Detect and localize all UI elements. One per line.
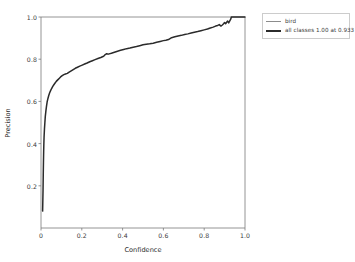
x-tick-label: 0.4 [118, 232, 128, 239]
y-tick-label: 1.0 [21, 14, 37, 21]
legend-swatch-line-icon [266, 21, 281, 22]
legend-swatch-line-icon [266, 30, 281, 32]
y-tick-label: 0.4 [21, 140, 37, 147]
series-line-all-classes [43, 17, 245, 211]
legend-label: bird [285, 17, 296, 26]
x-tick-label: 0.2 [77, 232, 87, 239]
legend-item-all-classes[interactable]: all classes 1.00 at 0.933 [266, 26, 346, 35]
precision-confidence-chart: 00.20.40.60.81.0 0.20.40.60.81.0 Confide… [0, 0, 355, 262]
y-tick-label: 0.6 [21, 98, 37, 105]
x-tick-label: 0.6 [158, 232, 168, 239]
x-axis-label: Confidence [124, 246, 161, 254]
chart-legend: bird all classes 1.00 at 0.933 [262, 13, 350, 39]
x-tick-label: 0.8 [199, 232, 209, 239]
y-tick-label: 0.8 [21, 56, 37, 63]
y-tick-label: 0.2 [21, 182, 37, 189]
axis-tick-marks [39, 17, 246, 231]
data-series-group [43, 17, 245, 211]
x-tick-label: 0 [39, 232, 43, 239]
plot-canvas [0, 0, 355, 262]
axes-spines [41, 17, 245, 228]
y-axis-label: Precision [4, 108, 12, 137]
x-tick-label: 1.0 [240, 232, 250, 239]
legend-label: all classes 1.00 at 0.933 [285, 26, 354, 35]
legend-item-bird[interactable]: bird [266, 17, 346, 26]
